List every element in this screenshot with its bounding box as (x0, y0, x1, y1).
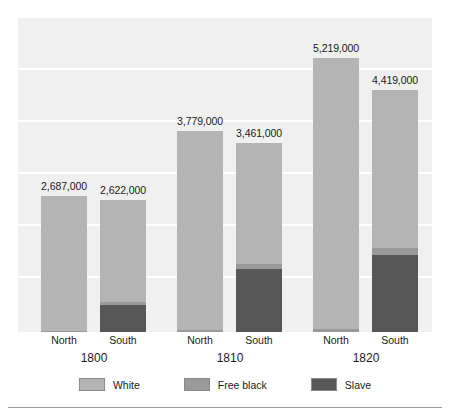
bar-segment-white (100, 200, 146, 302)
legend: White Free black Slave (0, 378, 450, 391)
group-label-1820: 1820 (321, 351, 411, 365)
bar-segment-slave (372, 255, 418, 332)
bar-segment-white (41, 196, 87, 331)
axis-tick-1800-north: North (34, 334, 94, 346)
legend-label-slave: Slave (345, 379, 371, 391)
bar-segment-white (313, 58, 359, 329)
axis-tick-1800-south: South (93, 334, 153, 346)
bar-1820-north[interactable]: 5,219,000 (313, 58, 359, 332)
bar-segment-free-black (372, 248, 418, 255)
bar-1800-north[interactable]: 2,687,000 (41, 196, 87, 332)
legend-item-free-black[interactable]: Free black (184, 378, 267, 391)
axis-tick-1820-south: South (365, 334, 425, 346)
legend-label-free-black: Free black (218, 379, 267, 391)
bar-segment-free-black (177, 330, 223, 332)
bar-1800-south[interactable]: 2,622,000 (100, 200, 146, 332)
axis-tick-1820-north: North (306, 334, 366, 346)
bar-1810-north[interactable]: 3,779,000 (177, 131, 223, 332)
legend-item-slave[interactable]: Slave (311, 378, 371, 391)
legend-swatch-free-black-icon (184, 378, 210, 391)
bar-segment-white (236, 143, 282, 264)
bar-value-label: 2,687,000 (41, 180, 87, 192)
category-axis: North South North South North South 1800… (18, 334, 432, 372)
bar-segment-white (177, 131, 223, 330)
bar-1810-south[interactable]: 3,461,000 (236, 143, 282, 332)
legend-item-white[interactable]: White (79, 378, 140, 391)
axis-tick-1810-north: North (170, 334, 230, 346)
bar-value-label: 2,622,000 (100, 184, 146, 196)
bar-value-label: 4,419,000 (372, 74, 418, 86)
bar-segment-free-black (41, 331, 87, 332)
bar-1820-south[interactable]: 4,419,000 (372, 90, 418, 332)
axis-tick-1810-south: South (229, 334, 289, 346)
bar-segment-slave (100, 305, 146, 332)
group-label-1810: 1810 (185, 351, 275, 365)
bar-segment-slave (236, 269, 282, 332)
group-label-1800: 1800 (49, 351, 139, 365)
legend-swatch-slave-icon (311, 378, 337, 391)
bars-layer: 2,687,000 2,622,000 3,779,000 3,461,000 … (18, 16, 432, 332)
bar-value-label: 3,461,000 (236, 127, 282, 139)
legend-label-white: White (113, 379, 140, 391)
bar-value-label: 3,779,000 (177, 115, 223, 127)
bottom-divider (8, 407, 442, 408)
population-stacked-bar-chart: 2,687,000 2,622,000 3,779,000 3,461,000 … (0, 0, 450, 416)
bar-value-label: 5,219,000 (313, 42, 359, 54)
legend-swatch-white-icon (79, 378, 105, 391)
bar-segment-white (372, 90, 418, 248)
bar-segment-free-black (313, 329, 359, 332)
